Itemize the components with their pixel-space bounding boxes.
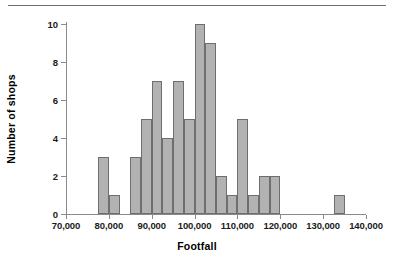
y-axis-tick-label: 10 bbox=[38, 19, 58, 30]
histogram-bar bbox=[173, 81, 184, 214]
x-axis-tick bbox=[195, 215, 196, 219]
y-axis-tick bbox=[61, 24, 66, 25]
histogram-bar bbox=[184, 119, 195, 214]
histogram-bar bbox=[205, 43, 216, 214]
histogram-bar bbox=[270, 176, 281, 214]
x-axis-tick-label: 120,000 bbox=[263, 220, 297, 231]
histogram-bar bbox=[237, 119, 248, 214]
histogram-bar bbox=[195, 24, 206, 214]
x-axis-tick bbox=[66, 215, 67, 219]
x-axis-label: Footfall bbox=[0, 240, 394, 252]
x-axis-tick-label: 70,000 bbox=[52, 220, 80, 231]
x-axis-tick-label: 100,000 bbox=[178, 220, 212, 231]
y-axis-tick-label: 2 bbox=[38, 171, 58, 182]
x-axis-line bbox=[66, 214, 366, 215]
plot-area bbox=[66, 24, 366, 214]
histogram-bar bbox=[152, 81, 163, 214]
y-axis-tick bbox=[61, 138, 66, 139]
y-axis-label: Number of shops bbox=[5, 39, 17, 199]
histogram-bar bbox=[109, 195, 120, 214]
y-axis-tick bbox=[61, 176, 66, 177]
histogram-bar bbox=[141, 119, 152, 214]
histogram-bar bbox=[259, 176, 270, 214]
y-axis-tick bbox=[61, 214, 66, 215]
histogram-bar bbox=[248, 195, 259, 214]
histogram-figure: Number of shops Footfall 70,00080,00090,… bbox=[0, 0, 394, 263]
x-axis-tick-label: 130,000 bbox=[306, 220, 340, 231]
y-axis-tick bbox=[61, 100, 66, 101]
y-axis-tick bbox=[61, 62, 66, 63]
x-axis-tick bbox=[366, 215, 367, 219]
histogram-bar bbox=[130, 157, 141, 214]
histogram-bar bbox=[227, 195, 238, 214]
histogram-bar bbox=[334, 195, 345, 214]
x-axis-tick bbox=[280, 215, 281, 219]
x-axis-tick bbox=[152, 215, 153, 219]
y-axis-tick-label: 8 bbox=[38, 57, 58, 68]
x-axis-tick bbox=[109, 215, 110, 219]
x-axis-tick-label: 140,000 bbox=[349, 220, 383, 231]
x-axis-tick bbox=[237, 215, 238, 219]
y-axis-tick-label: 4 bbox=[38, 133, 58, 144]
histogram-bar bbox=[162, 138, 173, 214]
x-axis-tick-label: 80,000 bbox=[95, 220, 123, 231]
top-divider-rule bbox=[8, 5, 386, 6]
x-axis-tick bbox=[323, 215, 324, 219]
x-axis-tick-label: 110,000 bbox=[221, 220, 254, 231]
y-axis-tick-label: 6 bbox=[38, 95, 58, 106]
histogram-bar bbox=[98, 157, 109, 214]
y-axis-tick-label: 0 bbox=[38, 209, 58, 220]
histogram-bar bbox=[216, 176, 227, 214]
x-axis-tick-label: 90,000 bbox=[137, 220, 165, 231]
